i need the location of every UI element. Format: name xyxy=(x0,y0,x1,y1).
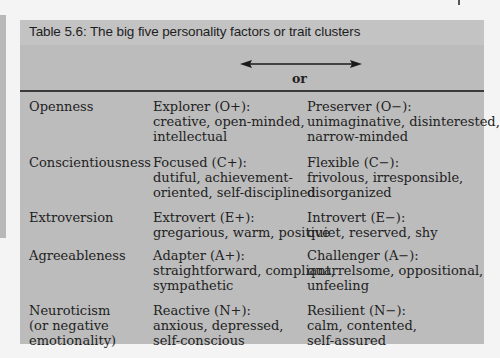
factor-cell: Conscientiousness xyxy=(29,155,151,170)
double-arrow-icon xyxy=(240,58,362,70)
personality-table: Table 5.6: The big five personality fact… xyxy=(20,20,484,344)
header-divider xyxy=(20,90,484,92)
negative-pole-cell: Resilient (N−): calm, contented, self-as… xyxy=(307,303,417,348)
positive-pole-cell: Explorer (O+): creative, open-minded, in… xyxy=(153,99,305,144)
negative-pole-cell: Preserver (O−): unimaginative, disintere… xyxy=(307,99,500,144)
or-label: or xyxy=(292,71,307,86)
negative-pole-cell: Challenger (A−): quarrelsome, opposition… xyxy=(307,248,483,293)
table-title: Table 5.6: The big five personality fact… xyxy=(29,24,360,39)
page-edge-mark xyxy=(458,0,460,5)
factor-cell: Neuroticism (or negative emotionality) xyxy=(29,303,116,348)
positive-pole-cell: Focused (C+): dutiful, achievement- orie… xyxy=(153,155,316,200)
page-margin-bar xyxy=(0,15,6,238)
factor-cell: Extroversion xyxy=(29,210,113,225)
positive-pole-cell: Extrovert (E+): gregarious, warm, positi… xyxy=(153,210,330,240)
positive-pole-cell: Reactive (N+): anxious, depressed, self-… xyxy=(153,303,283,348)
factor-cell: Openness xyxy=(29,99,93,114)
factor-cell: Agreeableness xyxy=(29,248,126,263)
negative-pole-cell: Flexible (C−): frivolous, irresponsible,… xyxy=(307,155,463,200)
negative-pole-cell: Introvert (E−): quiet, reserved, shy xyxy=(307,210,438,240)
